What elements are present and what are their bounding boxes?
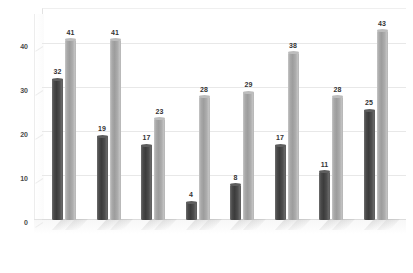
bar-value-label: 41 [67, 29, 75, 36]
y-tick-label-30: 30 [20, 87, 28, 94]
bar-top-cap [97, 135, 108, 138]
bar-cylinder [186, 202, 197, 220]
bar-value-label: 28 [200, 86, 208, 93]
bar-group: 1723 [141, 22, 167, 220]
bar-dark: 17 [275, 145, 286, 220]
bar-dark: 19 [97, 136, 108, 220]
bar-group: 2543 [364, 22, 390, 220]
bar-value-label: 19 [98, 125, 106, 132]
bar-cylinder [52, 79, 63, 220]
bar-value-label: 17 [276, 134, 284, 141]
bar-cylinder [288, 53, 299, 220]
bar-top-cap [243, 91, 254, 94]
bar-value-label: 32 [54, 68, 62, 75]
bar-value-label: 38 [289, 42, 297, 49]
bars-layer: 324119411723428829173811282543 [42, 8, 406, 234]
bar-cylinder [141, 145, 152, 220]
bar-top-cap [364, 109, 375, 112]
bar-group: 1738 [275, 22, 301, 220]
bar-value-label: 17 [143, 134, 151, 141]
bar-cylinder [243, 92, 254, 220]
y-tick-label-40: 40 [20, 43, 28, 50]
bar-value-label: 25 [365, 99, 373, 106]
bar-group: 829 [230, 22, 256, 220]
bar-cylinder [65, 40, 76, 220]
bar-value-label: 8 [234, 174, 238, 181]
bar-dark: 25 [364, 110, 375, 220]
bar-cylinder [275, 145, 286, 220]
bar-top-cap [186, 201, 197, 204]
bar-dark: 4 [186, 202, 197, 220]
bar-light: 29 [243, 92, 254, 220]
bar-cylinder [230, 185, 241, 220]
bar-light: 23 [154, 119, 165, 220]
bar-cylinder [332, 97, 343, 220]
bar-value-label: 4 [189, 191, 193, 198]
bar-dark: 8 [230, 185, 241, 220]
bar-light: 41 [110, 40, 121, 220]
bar-cylinder [319, 172, 330, 220]
bar-dark: 17 [141, 145, 152, 220]
bar-cylinder [199, 97, 210, 220]
bar-light: 38 [288, 53, 299, 220]
bar-light: 43 [377, 31, 388, 220]
bar-cylinder [377, 31, 388, 220]
bar-light: 28 [332, 97, 343, 220]
bar-value-label: 41 [111, 29, 119, 36]
bar-value-label: 43 [378, 20, 386, 27]
bar-cylinder [110, 40, 121, 220]
bar-chart: 1 or 2 doctors 4 or more doctors 4030201… [0, 0, 413, 273]
bar-cylinder [364, 110, 375, 220]
bar-value-label: 28 [334, 86, 342, 93]
bar-group: 428 [186, 22, 212, 220]
bar-light: 41 [65, 40, 76, 220]
y-tick-label-10: 10 [20, 175, 28, 182]
bar-value-label: 29 [245, 81, 253, 88]
y-tick-label-20: 20 [20, 131, 28, 138]
bar-group: 3241 [52, 22, 78, 220]
y-tick-label-0: 0 [24, 219, 28, 226]
bar-dark: 11 [319, 172, 330, 220]
bar-light: 28 [199, 97, 210, 220]
bar-group: 1941 [97, 22, 123, 220]
bar-top-cap [52, 78, 63, 81]
y-axis: 403020100 [0, 8, 34, 234]
bar-group: 1128 [319, 22, 345, 220]
bar-value-label: 23 [156, 108, 164, 115]
bar-top-cap [141, 144, 152, 147]
bar-top-cap [275, 144, 286, 147]
bar-top-cap [110, 38, 121, 41]
bar-dark: 32 [52, 79, 63, 220]
bar-cylinder [97, 136, 108, 220]
bar-cylinder [154, 119, 165, 220]
bar-value-label: 11 [321, 161, 328, 168]
